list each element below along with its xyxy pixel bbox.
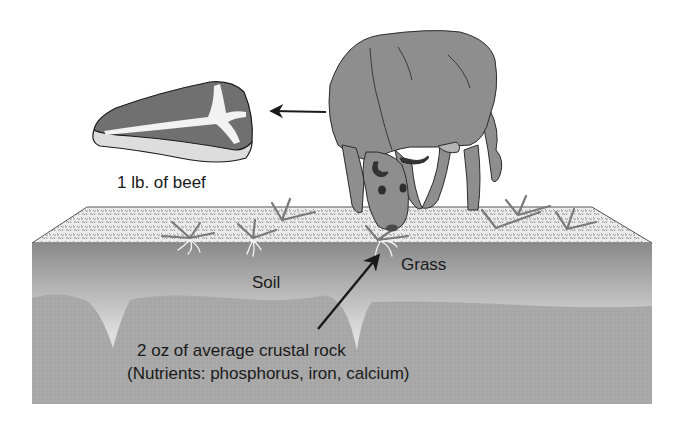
ground-surface xyxy=(32,207,652,243)
rock-label: 2 oz of average crustal rock xyxy=(137,342,346,359)
cow-back-leg xyxy=(464,145,480,210)
cow-eye xyxy=(378,186,386,195)
steak xyxy=(93,82,252,162)
cow-nose xyxy=(386,225,398,232)
nutrients-label: (Nutrients: phosphorus, iron, calcium) xyxy=(127,365,410,382)
beef-label: 1 lb. of beef xyxy=(117,174,206,191)
grass-label: Grass xyxy=(401,256,446,273)
cow-horn xyxy=(400,156,429,164)
soil-label: Soil xyxy=(252,274,280,291)
cow-body xyxy=(329,31,497,160)
cow xyxy=(329,31,502,232)
arrow-cow-to-beef xyxy=(272,111,326,112)
cow-eye xyxy=(400,184,407,193)
